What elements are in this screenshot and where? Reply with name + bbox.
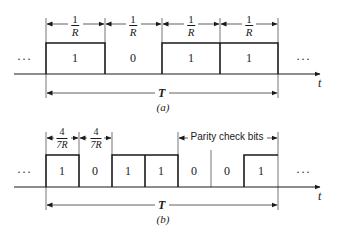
duration-label-b-2: 4 7R (90, 126, 101, 151)
duration-label-a-3: 1 R (187, 13, 195, 38)
axis-label-t-a: t (318, 76, 321, 91)
bit-b-7: 1 (258, 164, 264, 179)
duration-label-a-4: 1 R (245, 13, 253, 38)
bit-b-1: 1 (59, 164, 65, 179)
duration-label-b-1: 4 7R (56, 126, 67, 151)
ellipsis-right-b: ··· (296, 165, 311, 180)
bit-b-4: 1 (158, 164, 164, 179)
bit-b-2: 0 (92, 164, 98, 179)
bit-a-1: 1 (72, 51, 78, 66)
bit-b-3: 1 (125, 164, 131, 179)
bit-a-2: 0 (130, 51, 136, 66)
ellipsis-right-a: ··· (296, 52, 311, 67)
period-label-a: T (158, 86, 165, 101)
bit-b-5: 0 (191, 164, 197, 179)
caption-b: (b) (157, 213, 170, 225)
bit-a-3: 1 (188, 51, 194, 66)
duration-label-a-1: 1 R (71, 13, 79, 38)
bit-a-4: 1 (246, 51, 252, 66)
caption-a: (a) (157, 101, 170, 113)
axis-label-t-b: t (318, 189, 321, 204)
bit-b-6: 0 (224, 164, 230, 179)
ellipsis-left-a: ··· (17, 52, 32, 67)
parity-check-label: Parity check bits (190, 131, 265, 142)
waveform-diagram (0, 0, 337, 240)
panel-a-waveform (14, 18, 320, 98)
ellipsis-left-b: ··· (17, 165, 32, 180)
duration-label-a-2: 1 R (129, 13, 137, 38)
period-label-b: T (158, 198, 165, 213)
